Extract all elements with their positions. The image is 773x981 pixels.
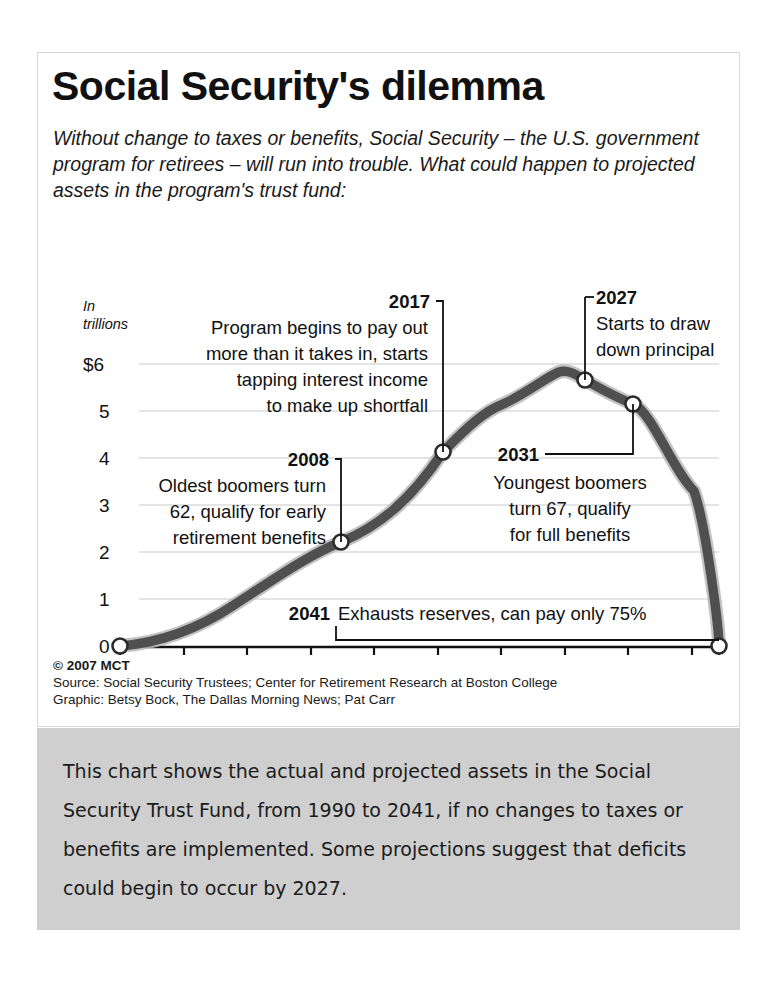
callout-2008-line2: 62, qualify for early [170, 501, 327, 522]
callout-2017-year: 2017 [389, 291, 430, 312]
callout-2031-line3: for full benefits [510, 524, 630, 545]
deck-subtitle: Without change to taxes or benefits, Soc… [53, 125, 718, 203]
caption-text: This chart shows the actual and projecte… [63, 752, 713, 908]
callout-2008-line1: Oldest boomers turn [158, 475, 326, 496]
callout-2008: 2008 Oldest boomers turn 62, qualify for… [158, 449, 341, 548]
y-tick-6: $6 [83, 354, 104, 375]
callout-2027-line2: down principal [596, 339, 714, 360]
callout-2017-line4: to make up shortfall [267, 395, 428, 416]
callout-2027-year: 2027 [596, 287, 637, 308]
callout-2031-year: 2031 [498, 444, 539, 465]
callout-2027-line1: Starts to draw [596, 313, 711, 334]
callout-2031-line1: Youngest boomers [493, 472, 647, 493]
y-axis-unit-line1: In [83, 298, 95, 314]
y-tick-2: 2 [99, 542, 110, 563]
callout-2031: 2031 Youngest boomers turn 67, qualify f… [493, 404, 647, 545]
x-axis-ticks [120, 647, 719, 655]
page-title: Social Security's dilemma [52, 63, 722, 109]
data-point-1990 [113, 639, 128, 654]
y-tick-1: 1 [99, 589, 110, 610]
callout-2008-line3: retirement benefits [173, 527, 326, 548]
caption-panel: This chart shows the actual and projecte… [37, 728, 740, 930]
callout-2017: 2017 Program begins to pay out more than… [206, 291, 443, 452]
source-line: Source: Social Security Trustees; Center… [53, 674, 723, 691]
copyright-line: © 2007 MCT [53, 657, 723, 674]
callout-2031-line2: turn 67, qualify [509, 498, 631, 519]
callout-2017-line1: Program begins to pay out [211, 317, 428, 338]
y-tick-0: 0 [99, 636, 110, 655]
callout-2041-year: 2041 [289, 603, 330, 624]
callout-2041: 2041 Exhausts reserves, can pay only 75% [289, 603, 719, 640]
y-tick-3: 3 [99, 495, 110, 516]
y-axis-unit-line2: trillions [83, 316, 128, 332]
infographic-panel: Social Security's dilemma Without change… [37, 52, 740, 727]
callout-2041-leader [336, 626, 719, 640]
y-tick-5: 5 [99, 401, 110, 422]
trust-fund-line-chart: In trillions $6 5 4 3 2 1 0 [38, 205, 739, 655]
callout-2017-line2: more than it takes in, starts [206, 343, 428, 364]
graphic-credit-line: Graphic: Betsy Bock, The Dallas Morning … [53, 691, 723, 708]
callout-2017-line3: tapping interest income [237, 369, 428, 390]
callout-2041-text: Exhausts reserves, can pay only 75% [338, 603, 647, 624]
callout-2008-year: 2008 [288, 449, 329, 470]
y-tick-4: 4 [99, 448, 110, 469]
callout-2027: 2027 Starts to draw down principal [585, 287, 714, 380]
callout-2008-leader [335, 459, 341, 542]
callout-2017-leader [436, 301, 443, 452]
credits-block: © 2007 MCT Source: Social Security Trust… [53, 657, 723, 708]
